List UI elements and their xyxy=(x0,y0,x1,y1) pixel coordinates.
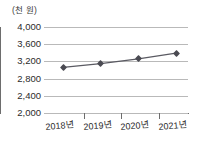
data-point-marker xyxy=(172,50,179,57)
data-point-marker xyxy=(59,64,66,71)
plot-area xyxy=(44,27,188,113)
y-axis-tick-label: 3,200 xyxy=(3,56,41,66)
y-axis-tick-label: 2,400 xyxy=(3,91,41,101)
gridline xyxy=(44,96,188,97)
x-axis-tick-label: 2019년 xyxy=(83,118,112,133)
x-axis-tick-label: 2018년 xyxy=(45,118,74,133)
gridline xyxy=(44,44,188,45)
gridline xyxy=(44,79,188,80)
gridline xyxy=(44,27,188,28)
x-axis-tick xyxy=(159,113,160,119)
gridline xyxy=(44,61,188,62)
x-axis-tick-label: 2020년 xyxy=(120,118,149,133)
x-axis-tick xyxy=(84,113,85,119)
x-axis-tick-label: 2021년 xyxy=(158,118,187,133)
y-axis-tick-labels: 4,0003,6003,2002,8002,4002,000 xyxy=(0,0,41,143)
y-axis-line xyxy=(0,27,1,114)
series-line-path xyxy=(44,27,188,113)
x-axis-tick xyxy=(121,113,122,119)
gridline xyxy=(44,113,188,114)
y-axis-tick-label: 2,800 xyxy=(3,74,41,84)
y-axis-tick-label: 3,600 xyxy=(3,39,41,49)
line-chart: (천 원) 4,0003,6003,2002,8002,4002,000 201… xyxy=(0,0,198,143)
y-axis-tick-label: 4,000 xyxy=(3,22,41,32)
y-axis-tick-label: 2,000 xyxy=(3,108,41,118)
